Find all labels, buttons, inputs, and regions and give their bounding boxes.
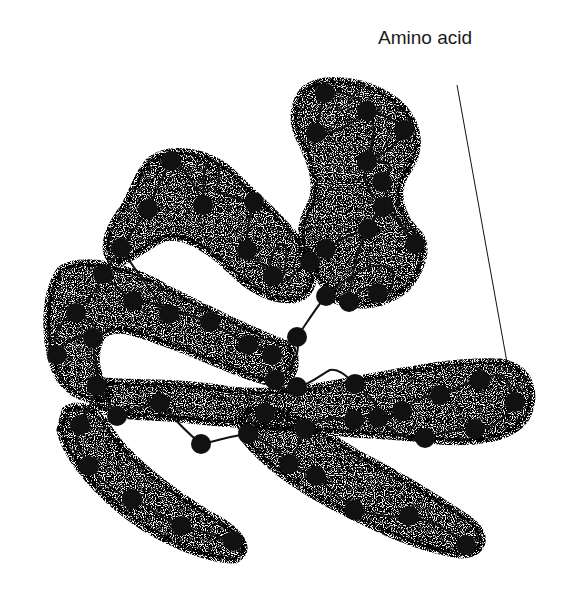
amino-acid-dot [339,292,359,312]
amino-acid-dot [171,516,191,536]
amino-acid-dot [392,401,412,421]
amino-acid-dot [316,239,336,259]
amino-acid-dot [161,151,181,171]
amino-acid-dot [306,466,326,486]
amino-acid-dot [70,415,90,435]
amino-acid-dot [150,393,170,413]
amino-acid-dot [159,304,179,324]
amino-acid-dot [470,370,490,390]
amino-acid-dot [306,123,326,143]
amino-acid-dot [344,410,364,430]
amino-acid-dot [279,454,299,474]
stippled-envelope-group [47,81,532,560]
amino-acid-dot [316,286,336,306]
amino-acid-dot [107,406,127,426]
amino-acid-dot [295,419,315,439]
amino-acid-dot [300,252,320,272]
amino-acid-dot [255,403,275,423]
amino-acid-dot [344,500,364,520]
amino-acid-dot [430,385,450,405]
label-leader-line [457,85,508,368]
amino-acid-dot [394,120,414,140]
amino-acid-dot [263,266,283,286]
amino-acid-dot [66,303,86,323]
amino-acid-dot [47,345,67,365]
amino-acid-dot [93,264,113,284]
amino-acid-dot [193,195,213,215]
amino-acid-dot [122,489,142,509]
amino-acid-dot [372,172,392,192]
amino-acid-dot [83,328,103,348]
amino-acid-dot [191,434,211,454]
amino-acid-dot [368,283,388,303]
amino-acid-dot [111,238,131,258]
amino-acid-dot [238,424,258,444]
amino-acid-dot [357,151,377,171]
amino-acid-dot [287,377,307,397]
protein-structure-diagram [0,0,563,594]
amino-acid-dot [237,240,257,260]
amino-acid-dot [465,419,485,439]
amino-acid-dot [262,345,282,365]
amino-acid-dot [287,327,307,347]
amino-acid-dot [265,370,285,390]
amino-acid-dot [405,234,425,254]
amino-acid-dot [373,197,393,217]
amino-acid-dot [368,408,388,428]
amino-acid-dot [138,199,158,219]
amino-acid-dot [200,312,220,332]
amino-acid-dot [357,101,377,121]
amino-acid-dot [345,374,365,394]
amino-acid-dot [244,192,264,212]
amino-acid-dot [123,291,143,311]
amino-acid-dot [238,335,258,355]
amino-acid-dot [315,83,335,103]
amino-acid-dot [87,376,107,396]
amino-acid-dot [79,456,99,476]
amino-acid-label: Amino acid [378,27,472,49]
amino-acid-dot [505,392,525,412]
amino-acid-dot [358,219,378,239]
amino-acid-dot [399,506,419,526]
amino-acid-dot [456,535,476,555]
amino-acid-dot [415,428,435,448]
amino-acid-dot [223,531,243,551]
